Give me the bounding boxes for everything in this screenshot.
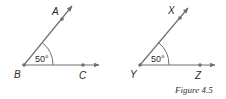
- angle-abc: 50° A B C: [14, 6, 99, 81]
- point-x-dot: [178, 16, 182, 20]
- vertex-b-dot: [22, 63, 26, 67]
- angle-b-measure: 50°: [35, 54, 49, 64]
- point-a-dot: [60, 17, 64, 21]
- angle-xyz: 50° X Y Z: [130, 5, 215, 81]
- label-c: C: [79, 70, 87, 81]
- label-a: A: [51, 6, 59, 17]
- label-x: X: [167, 5, 175, 16]
- point-c-dot: [81, 63, 85, 67]
- label-z: Z: [194, 70, 202, 81]
- label-b: B: [14, 69, 21, 80]
- figure-caption: Figure 4.5: [174, 85, 213, 95]
- point-z-dot: [198, 63, 202, 67]
- label-y: Y: [130, 69, 138, 80]
- angle-y-measure: 50°: [151, 54, 165, 64]
- vertex-y-dot: [138, 63, 142, 67]
- angle-diagrams: 50° A B C 50° X Y Z Figure 4.5: [0, 0, 226, 99]
